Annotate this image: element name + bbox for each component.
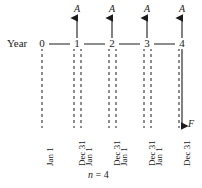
cash-flow-label-2: A xyxy=(106,4,118,14)
cash-flow-diagram: Year 0 1 2 3 4 A A A A F Jan 1 Dec 31 Ja… xyxy=(0,0,202,188)
axis-label-year: Year xyxy=(7,38,27,49)
date-label-dec31-year4: Dec 31 xyxy=(183,140,192,166)
future-value-label: F xyxy=(188,119,194,129)
dashed-guide-group xyxy=(42,48,179,128)
date-label-jan1-year1: Jan 1 xyxy=(85,147,94,166)
cash-flow-label-3: A xyxy=(141,4,153,14)
tick-label-2: 2 xyxy=(105,38,119,49)
annuity-arrow-group xyxy=(77,18,182,44)
date-label-jan1-year3: Jan 1 xyxy=(155,147,164,166)
date-label-jan1-year2: Jan 1 xyxy=(120,147,129,166)
periods-value: = 4 xyxy=(93,169,109,180)
cash-flow-label-4: A xyxy=(176,4,188,14)
tick-label-4: 4 xyxy=(175,38,189,49)
tick-label-0: 0 xyxy=(35,38,49,49)
tick-label-1: 1 xyxy=(70,38,84,49)
cash-flow-label-1: A xyxy=(71,4,83,14)
diagram-canvas xyxy=(0,0,202,188)
date-label-jan1-year0: Jan 1 xyxy=(46,147,55,166)
periods-caption: n = 4 xyxy=(88,170,109,180)
tick-label-3: 3 xyxy=(140,38,154,49)
